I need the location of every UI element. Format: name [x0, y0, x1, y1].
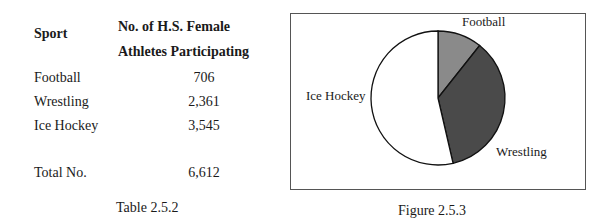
label-football: Football [462, 14, 505, 30]
figure-caption: Figure 2.5.3 [398, 203, 466, 219]
pie-chart [0, 0, 615, 223]
label-wrestling: Wrestling [496, 144, 547, 160]
label-ice-hockey: Ice Hockey [306, 88, 366, 104]
